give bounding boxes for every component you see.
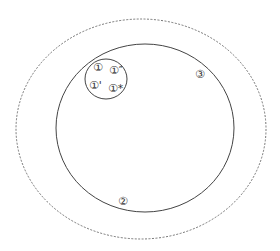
- diagram-canvas: [0, 0, 280, 251]
- label-two: ②: [118, 196, 128, 207]
- label-one: ①: [93, 62, 103, 73]
- label-one-double-prime: ①″: [109, 65, 123, 76]
- outer-dashed-ellipse: [16, 19, 266, 239]
- inner-solid-ellipse: [56, 44, 234, 212]
- label-one-prime: ①': [89, 80, 102, 91]
- label-three: ③: [195, 69, 205, 80]
- label-one-star: ①*: [108, 83, 123, 94]
